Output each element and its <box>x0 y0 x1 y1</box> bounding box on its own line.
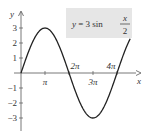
fraction-denominator: 2 <box>123 26 128 36</box>
x-axis-label: x <box>136 76 141 86</box>
y-tick-label: 1 <box>13 53 18 63</box>
y-tick-label: −1 <box>7 83 17 93</box>
x-tick-label: 2π <box>70 61 80 71</box>
x-axis-arrow-icon <box>136 71 141 76</box>
x-tick-label: 3π <box>87 77 98 87</box>
x-tick-label: π <box>43 77 48 87</box>
y-tick-label: −2 <box>7 98 17 108</box>
x-tick-label: 4π <box>106 61 116 71</box>
y-tick-label: 2 <box>13 38 18 48</box>
y-tick-label: 3 <box>13 23 18 33</box>
y-axis-label: y <box>9 9 14 19</box>
y-tick-label: −3 <box>7 113 17 123</box>
equation-text: y = 3 sin <box>71 19 103 29</box>
fraction-numerator: x <box>122 13 127 23</box>
sine-chart: y = 3 sinx2 xy 321−1−2−3π2π3π4π <box>0 0 146 135</box>
